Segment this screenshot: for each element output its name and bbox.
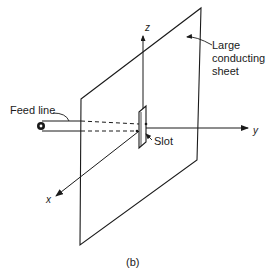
slot	[136, 106, 152, 148]
slot-label: Slot	[154, 135, 173, 147]
feed-line-label: Feed line	[10, 104, 55, 116]
figure-caption: (b)	[126, 256, 139, 268]
sheet-label: Large conducting sheet	[212, 39, 265, 78]
x-axis	[56, 128, 143, 196]
z-axis-label: z	[145, 22, 150, 33]
sheet-label-line-3: sheet	[212, 65, 265, 78]
y-axis-label: y	[253, 125, 258, 136]
sheet-label-line-2: conducting	[212, 52, 265, 65]
sheet-label-leader	[187, 37, 212, 45]
sheet-label-line-1: Large	[212, 39, 265, 52]
x-axis-label: x	[46, 194, 51, 205]
